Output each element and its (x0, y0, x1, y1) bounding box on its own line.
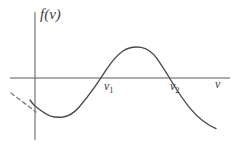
root-label-v2-subscript: 2 (175, 85, 179, 95)
y-axis-label: f(v) (40, 7, 61, 22)
plot-canvas (0, 0, 234, 147)
root-label-v1-subscript: 1 (109, 85, 113, 95)
axes-group (10, 12, 230, 140)
f-of-v-curve (30, 47, 216, 129)
root-label-v1: v1 (104, 80, 114, 94)
function-plot-figure: f(v) v1 v2 v (0, 0, 234, 147)
root-label-v2: v2 (170, 80, 180, 94)
x-axis-label: v (215, 78, 220, 90)
